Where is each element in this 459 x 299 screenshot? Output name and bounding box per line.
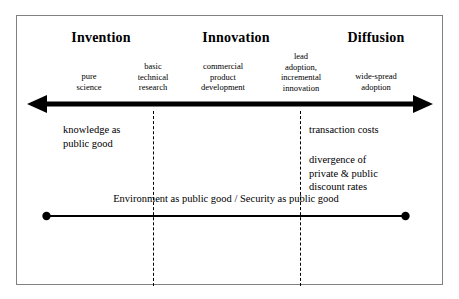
arrow-head-left bbox=[27, 95, 47, 113]
diagram-canvas: Invention Innovation Diffusion pure scie… bbox=[0, 0, 459, 299]
phase-heading-diffusion: Diffusion bbox=[347, 30, 404, 46]
public-good-bar: Environment as public good / Security as… bbox=[42, 209, 410, 227]
stage-label-wide-spread-adoption: wide-spread adoption bbox=[340, 71, 412, 92]
phase-heading-innovation: Innovation bbox=[202, 30, 269, 46]
arrow-head-right bbox=[413, 95, 433, 113]
public-good-bar-label: Environment as public good / Security as… bbox=[113, 192, 339, 205]
stage-label-basic-technical-research: basic technical research bbox=[121, 61, 185, 93]
arrow-shaft bbox=[45, 102, 415, 107]
stage-label-commercial-product-development: commercial product development bbox=[183, 61, 263, 93]
public-good-bar-endpoint-right bbox=[401, 212, 409, 220]
public-good-bar-endpoint-left bbox=[42, 212, 50, 220]
note-divergence-discount-rates: divergence of private & public discount … bbox=[309, 153, 378, 194]
public-good-bar-svg bbox=[42, 209, 410, 223]
diagram-frame: Invention Innovation Diffusion pure scie… bbox=[16, 15, 443, 285]
stage-label-pure-science: pure science bbox=[57, 71, 121, 92]
note-transaction-costs: transaction costs bbox=[309, 123, 379, 137]
phase-heading-invention: Invention bbox=[71, 30, 130, 46]
stage-label-lead-adoption-incremental-innovation: lead adoption, incremental innovation bbox=[264, 51, 338, 93]
note-knowledge-public-good: knowledge as public good bbox=[63, 123, 120, 150]
double-headed-arrow bbox=[27, 94, 433, 114]
double-headed-arrow-svg bbox=[27, 94, 433, 114]
